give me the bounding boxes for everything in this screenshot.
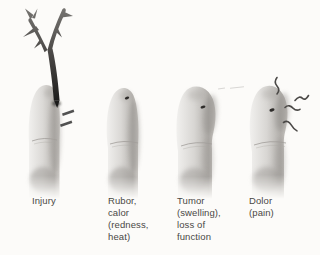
label-dolor-pain: Dolor (pain) <box>249 195 274 219</box>
label-tumor-loss-of-function: Tumor (swelling), loss of function <box>177 195 221 243</box>
inflammation-diagram: Injury Rubor, calor (redness, heat) Tumo… <box>0 0 320 255</box>
dolor-finger-illustration <box>244 74 316 200</box>
tumor-finger-illustration <box>172 83 222 200</box>
thorn-branch-icon <box>16 4 88 130</box>
label-injury: Injury <box>32 195 56 207</box>
label-rubor-calor: Rubor, calor (redness, heat) <box>108 195 149 243</box>
thorn <box>32 9 38 19</box>
thorn <box>62 12 74 18</box>
rubor-finger-illustration <box>102 84 148 200</box>
thorn-fragments <box>60 110 74 128</box>
branch-stem <box>48 49 60 101</box>
branch-left-limb <box>28 18 47 52</box>
print-artifact <box>218 84 250 94</box>
puncture-smudge <box>52 101 61 105</box>
